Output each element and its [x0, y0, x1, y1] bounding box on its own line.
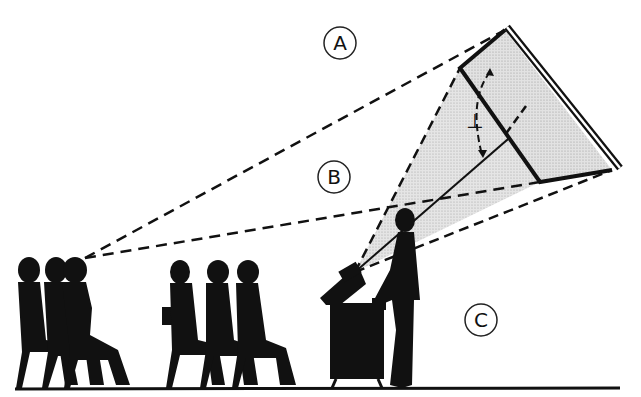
audience-group-middle — [162, 260, 296, 388]
svg-text:A: A — [333, 31, 347, 55]
seated-person — [232, 260, 296, 388]
svg-text:B: B — [327, 165, 341, 189]
floor-line — [15, 388, 620, 389]
label-a: A — [324, 27, 356, 59]
perpendicular-symbol: ⊥ — [466, 109, 483, 133]
label-b: B — [318, 161, 350, 193]
projector-cart — [330, 298, 386, 388]
projection-diagram: ⊥ A B C — [0, 0, 641, 397]
svg-text:C: C — [474, 308, 488, 332]
audience-group-left — [16, 257, 130, 388]
label-c: C — [465, 304, 497, 336]
overhead-projector — [320, 262, 366, 305]
